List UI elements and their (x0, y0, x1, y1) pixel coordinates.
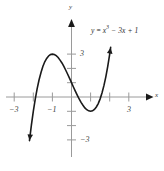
cubic-graph-svg (0, 0, 164, 171)
equation-label: y = x3 − 3x + 1 (91, 25, 138, 34)
x-tick-label-neg3: −3 (9, 106, 18, 114)
figure-canvas: y = x3 − 3x + 1 y x −3 −1 3 3 −3 (0, 0, 164, 171)
x-tick-label-3: 3 (127, 106, 131, 114)
equation-equals: = (94, 26, 102, 35)
cubic-curve-path (29, 47, 110, 140)
equation-rest: − 3x + 1 (109, 26, 138, 35)
x-tick-label-neg1: −1 (47, 106, 56, 114)
y-tick-label-3: 3 (80, 50, 84, 58)
y-tick-label-neg3: −3 (80, 136, 89, 144)
x-axis-label: x (155, 92, 158, 99)
y-axis-arrowhead-icon (68, 19, 75, 27)
y-axis-label: y (69, 4, 72, 11)
x-axis-arrowhead-icon (146, 94, 154, 101)
